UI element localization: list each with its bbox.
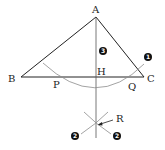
- label-h: H: [97, 66, 106, 77]
- construction-arc-from-p: [84, 112, 111, 134]
- label-a: A: [91, 4, 100, 15]
- label-q: Q: [128, 81, 136, 92]
- step-marker-2-left-number: 2: [73, 132, 77, 139]
- label-r: R: [116, 113, 124, 124]
- step-marker-3: 3: [99, 47, 107, 55]
- step-marker-3-number: 3: [101, 47, 105, 54]
- label-b: B: [8, 73, 15, 84]
- step-marker-2-left: 2: [71, 132, 79, 140]
- label-c: C: [147, 73, 155, 84]
- step-marker-2-right: 2: [113, 132, 121, 140]
- perpendicular-construction-diagram: A B C H P Q R 1 2 2 3: [0, 0, 165, 150]
- step-marker-1-number: 1: [146, 53, 150, 60]
- step-marker-1: 1: [144, 53, 152, 61]
- arrowhead-icon: [98, 122, 103, 126]
- step-marker-2-right-number: 2: [115, 132, 119, 139]
- segment-ab: [21, 17, 96, 77]
- label-p: P: [53, 79, 60, 90]
